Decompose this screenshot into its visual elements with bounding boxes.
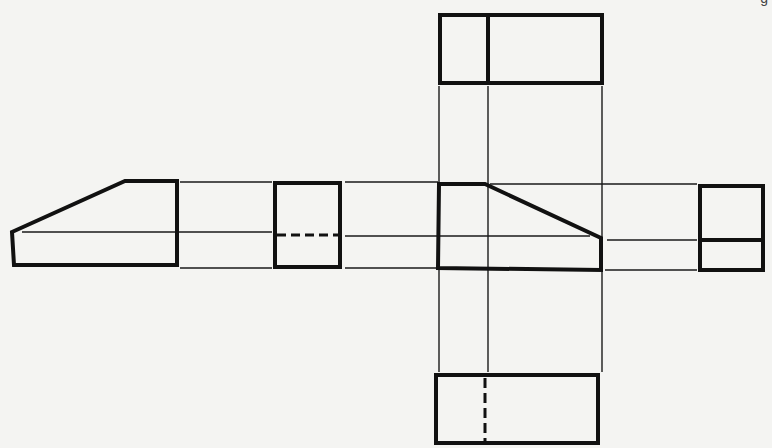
horizontal-projection-lines xyxy=(22,182,697,270)
bottom-view xyxy=(436,375,598,443)
front-view xyxy=(438,184,601,270)
orthographic-drawing: g xyxy=(0,0,772,448)
top-view xyxy=(440,15,602,83)
left-side-view xyxy=(12,181,177,265)
left-end-view xyxy=(275,183,340,267)
drawing-canvas xyxy=(0,0,772,448)
right-end-view xyxy=(700,186,763,270)
